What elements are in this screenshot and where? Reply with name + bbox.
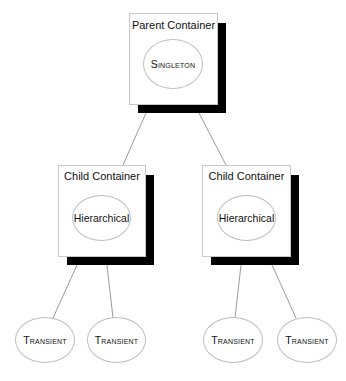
transient-ellipse-2: Transient xyxy=(87,317,146,363)
transient-label-2: Transient xyxy=(95,334,139,346)
connector-child-left-transient-1 xyxy=(53,265,77,318)
connector-child-right-transient-1 xyxy=(235,265,241,318)
hierarchical-ellipse-left: Hierarchical xyxy=(72,195,131,241)
child-container-left-title: Child Container xyxy=(59,170,145,182)
hierarchical-ellipse-right: Hierarchical xyxy=(217,195,276,241)
transient-label-4: Transient xyxy=(285,334,329,346)
hierarchical-right-label: Hierarchical xyxy=(219,212,274,224)
connector-parent-child-right xyxy=(199,113,226,165)
parent-container-title: Parent Container xyxy=(130,19,217,31)
singleton-label: Singleton xyxy=(151,58,195,70)
transient-ellipse-4: Transient xyxy=(277,317,337,363)
singleton-ellipse: Singleton xyxy=(143,39,203,89)
container-hierarchy-diagram: Parent Container Singleton Child Contain… xyxy=(0,0,346,381)
hierarchical-left-label: Hierarchical xyxy=(74,212,129,224)
child-container-right-title: Child Container xyxy=(203,170,290,182)
transient-ellipse-3: Transient xyxy=(203,317,263,363)
transient-label-3: Transient xyxy=(211,334,255,346)
connector-child-left-transient-2 xyxy=(107,265,113,318)
connector-parent-child-left xyxy=(123,113,146,165)
transient-label-1: Transient xyxy=(23,334,67,346)
connector-child-right-transient-2 xyxy=(272,265,296,318)
transient-ellipse-1: Transient xyxy=(15,317,75,363)
